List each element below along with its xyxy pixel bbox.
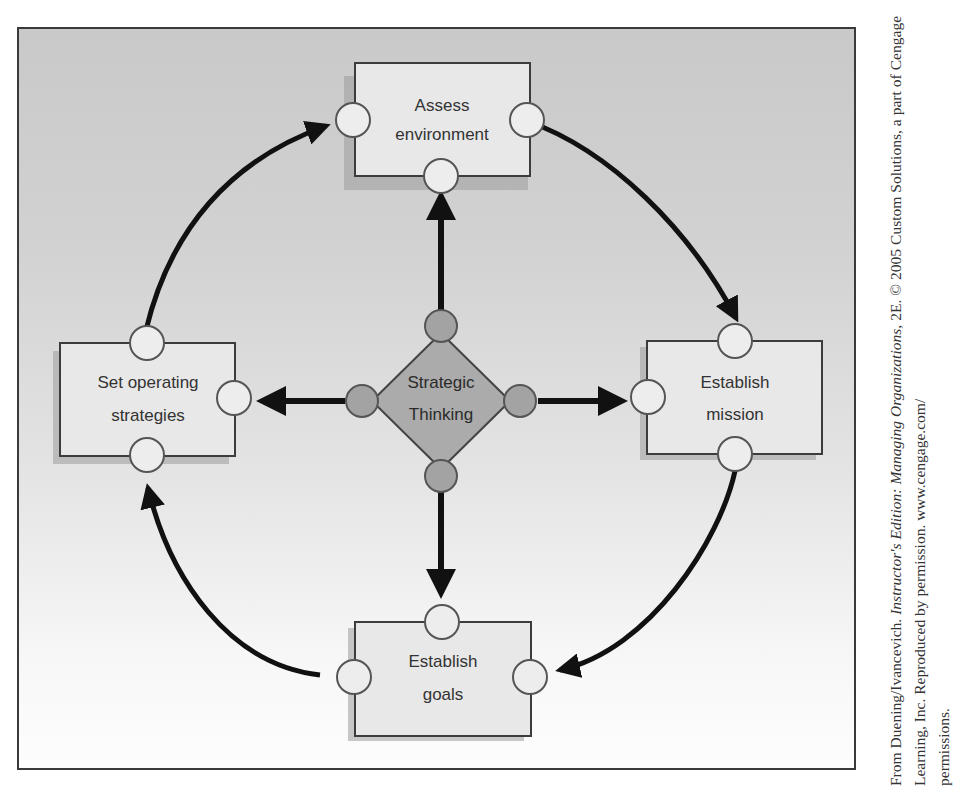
- connector-circle: [513, 660, 547, 694]
- arrow-strategies-to-assess: [146, 126, 326, 330]
- copyright-credit: From Duening/Ivancevich. Instructor's Ed…: [884, 16, 956, 786]
- center-label-line1: Strategic: [407, 373, 475, 392]
- connector-circle: [424, 159, 458, 193]
- node-assess-environment: Assess environment: [336, 63, 544, 193]
- strategic-thinking-diagram: Assess environment Establish mission Est…: [0, 0, 969, 794]
- connector-circle: [217, 381, 251, 415]
- connector-circle: [718, 324, 752, 358]
- center-strategic-thinking: Strategic Thinking: [346, 310, 536, 492]
- node-establish-mission: Establish mission: [631, 324, 822, 471]
- arrow-goals-to-strategies: [148, 488, 320, 675]
- connector-circle: [425, 605, 459, 639]
- connector-circle: [631, 380, 665, 414]
- node-label-line1: Assess: [415, 96, 470, 115]
- node-label-line2: strategies: [111, 406, 185, 425]
- connector-circle: [130, 326, 164, 360]
- node-set-operating-strategies: Set operating strategies: [53, 326, 251, 472]
- connector-circle: [504, 385, 536, 417]
- connector-circle: [510, 103, 544, 137]
- node-label-line2: goals: [423, 685, 464, 704]
- connector-circle: [346, 385, 378, 417]
- node-label-line2: mission: [706, 405, 764, 424]
- connector-circle: [336, 103, 370, 137]
- node-label-line1: Establish: [701, 373, 770, 392]
- center-label-line2: Thinking: [409, 405, 473, 424]
- node-label-line1: Set operating: [97, 373, 198, 392]
- connector-circle: [718, 437, 752, 471]
- node-establish-goals: Establish goals: [337, 605, 547, 741]
- credit-last-line: permissions.: [932, 16, 956, 786]
- arrow-mission-to-goals: [560, 471, 735, 670]
- connector-circle: [337, 660, 371, 694]
- node-label-line1: Establish: [409, 652, 478, 671]
- connector-circle: [425, 310, 457, 342]
- credit-title: Instructor's Edition: Managing Organizat…: [887, 329, 904, 615]
- connector-circle: [130, 438, 164, 472]
- connector-circle: [425, 460, 457, 492]
- node-label-line2: environment: [395, 125, 489, 144]
- arrow-assess-to-mission: [527, 121, 736, 318]
- credit-prefix: From Duening/Ivancevich.: [887, 615, 904, 786]
